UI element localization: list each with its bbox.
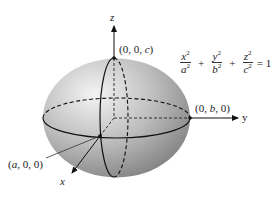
y-axis-label: y (242, 112, 248, 123)
x-term: x2 a2 (180, 50, 191, 75)
z-intercept-label: (0, 0, c) (119, 44, 153, 55)
ellipsoid-diagram (0, 0, 276, 200)
ellipsoid-equation: x2 a2 + y2 b2 + z2 c2 = 1 (178, 50, 271, 75)
x-intercept-dot (98, 134, 102, 138)
z-term: z2 c2 (242, 50, 252, 75)
z-axis-label: z (110, 12, 114, 23)
y-intercept-label: (0, b, 0) (195, 103, 230, 114)
plus-sign: + (229, 57, 235, 69)
plus-sign: + (198, 57, 204, 69)
equation-rhs: = 1 (257, 57, 271, 69)
x-intercept-label: (a, 0, 0) (8, 159, 43, 170)
z-intercept-dot (112, 56, 116, 60)
y-term: y2 b2 (211, 50, 222, 75)
x-axis-label: x (60, 176, 65, 187)
y-intercept-dot (188, 116, 192, 120)
